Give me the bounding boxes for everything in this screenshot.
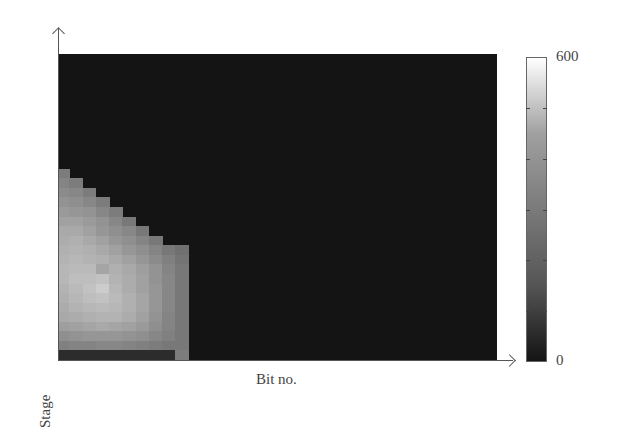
colorbar-max-label: 600 (556, 48, 579, 65)
heatmap-cell (149, 350, 163, 360)
x-axis-label: Bit no. (256, 371, 297, 388)
y-axis-label: Stage (37, 368, 54, 428)
colorbar-min-label: 0 (556, 352, 564, 369)
colorbar-tick (543, 210, 547, 211)
colorbar-tick (526, 108, 530, 109)
heatmap-cell (175, 350, 189, 360)
colorbar-tick (543, 108, 547, 109)
x-axis-line (58, 360, 513, 361)
colorbar-tick (526, 311, 530, 312)
colorbar-tick (526, 159, 530, 160)
colorbar-tick (543, 159, 547, 160)
heatmap-cell (96, 350, 110, 360)
heatmap-cell (69, 350, 83, 360)
y-axis-arrow-icon (52, 27, 65, 40)
x-axis-arrow-icon (503, 354, 516, 367)
heatmap-cell (162, 350, 176, 360)
heatmap-cell (136, 350, 150, 360)
heatmap-cell (59, 350, 70, 360)
colorbar-tick (543, 260, 547, 261)
heatmap-cell (109, 350, 123, 360)
heatmap-plot-area (59, 54, 497, 360)
colorbar-tick (543, 311, 547, 312)
y-axis-line (58, 28, 59, 361)
heatmap-cell (122, 350, 136, 360)
colorbar-tick (526, 210, 530, 211)
colorbar-tick (526, 260, 530, 261)
heatmap-cell (83, 350, 97, 360)
